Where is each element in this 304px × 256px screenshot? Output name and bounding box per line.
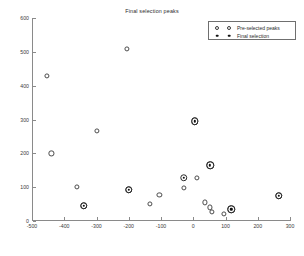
x-tick <box>129 217 130 221</box>
y-tick-label: 300 <box>20 117 29 123</box>
data-point-pre-selected <box>49 151 54 156</box>
x-tick <box>258 217 259 221</box>
data-point-pre-selected <box>94 128 99 133</box>
filled-dot-marker-icon <box>216 34 219 37</box>
x-tick-label: -100 <box>156 223 166 229</box>
data-point-pre-selected <box>209 210 214 215</box>
x-tick <box>226 217 227 221</box>
x-tick-label: 200 <box>253 223 262 229</box>
y-tick <box>33 120 36 121</box>
open-circle-marker-icon <box>215 26 219 30</box>
legend-item-final-selection: Final selection <box>209 32 295 40</box>
legend-item-pre-selected-peaks: Pre-selected peaks <box>209 24 295 32</box>
x-tick <box>193 217 194 221</box>
chart-legend: Pre-selected peaks Final selection <box>208 21 296 40</box>
y-tick <box>33 221 36 222</box>
legend-label: Pre-selected peaks <box>237 25 280 31</box>
x-tick-label: -400 <box>59 223 69 229</box>
data-point-pre-selected <box>221 211 226 216</box>
x-tick <box>32 217 33 221</box>
data-point-pre-selected <box>157 192 162 197</box>
legend-label: Final selection <box>237 33 269 39</box>
x-tick <box>290 217 291 221</box>
x-tick <box>97 217 98 221</box>
y-tick-label: 200 <box>20 150 29 156</box>
y-tick-label: 100 <box>20 184 29 190</box>
data-point-pre-selected <box>75 185 80 190</box>
x-tick-label: 300 <box>286 223 295 229</box>
open-circle-marker-icon <box>227 26 231 30</box>
y-tick <box>33 52 36 53</box>
y-tick-label: 500 <box>20 49 29 55</box>
y-tick-label: 600 <box>20 15 29 21</box>
x-tick-label: -500 <box>27 223 37 229</box>
y-tick <box>33 18 36 19</box>
x-tick-label: 0 <box>192 223 195 229</box>
figure-canvas: Final selection peaks 010020030040050060… <box>0 0 304 256</box>
data-point-pre-selected <box>147 201 152 206</box>
data-point-pre-selected <box>125 47 130 52</box>
x-tick-label: 100 <box>221 223 230 229</box>
data-point-pre-selected <box>195 175 200 180</box>
data-point-pre-selected <box>202 200 207 205</box>
x-tick-label: -200 <box>124 223 134 229</box>
y-tick <box>33 153 36 154</box>
x-tick <box>161 217 162 221</box>
y-tick <box>33 187 36 188</box>
filled-dot-marker-icon <box>228 34 231 37</box>
data-point-pre-selected <box>44 74 49 79</box>
y-tick <box>33 86 36 87</box>
data-point-pre-selected <box>181 185 186 190</box>
x-tick <box>64 217 65 221</box>
page-title: Final selection peaks <box>0 8 304 14</box>
x-tick-label: -300 <box>91 223 101 229</box>
plot-area: 0100200300400500600 -500-400-300-200-100… <box>32 18 290 221</box>
y-tick-label: 400 <box>20 83 29 89</box>
